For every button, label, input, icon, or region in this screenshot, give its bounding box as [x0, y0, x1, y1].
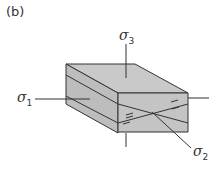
- sigma3-label: σ3: [119, 27, 134, 46]
- sigma2-label: σ2: [193, 143, 208, 162]
- stress-block-diagram: [0, 0, 222, 169]
- sigma1-label: σ1: [17, 89, 32, 108]
